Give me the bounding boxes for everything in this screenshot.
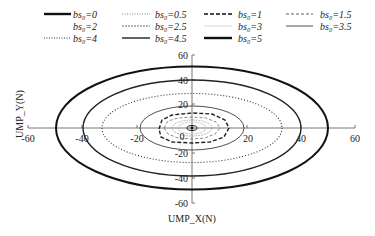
y-tick--20: -20 bbox=[175, 148, 188, 159]
y-tick-60: 60 bbox=[178, 50, 188, 61]
x-tick-40: 40 bbox=[296, 133, 306, 144]
origin-label: 0 bbox=[180, 131, 185, 142]
x-axis-label: UMP_X(N) bbox=[168, 213, 216, 225]
legend-label-bs0-4.5: bs₀=4.5 bbox=[155, 33, 187, 44]
y-tick-labels: 60 40 20 -20 -40 -60 bbox=[175, 50, 188, 209]
ellipse-chart: bs₀=0 bs₀=0.5 bs₀=1 bs₀=1.5 bs₀=2 bs₀=2.… bbox=[0, 0, 375, 236]
x-tick--20: -20 bbox=[130, 133, 143, 144]
x-tick-labels: -60 -40 -20 20 40 60 0 bbox=[21, 131, 360, 144]
y-tick-40: 40 bbox=[178, 75, 188, 86]
y-tick-20: 20 bbox=[178, 99, 188, 110]
y-tick--60: -60 bbox=[175, 198, 188, 209]
x-tick-20: 20 bbox=[243, 133, 253, 144]
x-tick--40: -40 bbox=[75, 133, 88, 144]
y-axis-label: UMP_Y(N) bbox=[14, 90, 26, 138]
y-tick--40: -40 bbox=[175, 173, 188, 184]
legend-label-bs0-5: bs₀=5 bbox=[238, 33, 262, 44]
legend-label-bs0-3.5: bs₀=3.5 bbox=[320, 21, 352, 32]
legend-label-bs0-1.5: bs₀=1.5 bbox=[320, 9, 352, 20]
legend: bs₀=0 bs₀=0.5 bs₀=1 bs₀=1.5 bs₀=2 bs₀=2.… bbox=[44, 9, 352, 44]
legend-label-bs0-1: bs₀=1 bbox=[238, 9, 262, 20]
legend-label-bs0-2.5: bs₀=2.5 bbox=[155, 21, 187, 32]
curve-bs0-0 bbox=[191, 127, 194, 130]
legend-label-bs0-2: bs₀=2 bbox=[73, 21, 97, 32]
legend-label-bs0-4: bs₀=4 bbox=[73, 33, 97, 44]
legend-label-bs0-0: bs₀=0 bbox=[73, 9, 97, 20]
legend-label-bs0-3: bs₀=3 bbox=[238, 21, 262, 32]
legend-label-bs0-0.5: bs₀=0.5 bbox=[155, 9, 187, 20]
x-tick-60: 60 bbox=[350, 133, 360, 144]
